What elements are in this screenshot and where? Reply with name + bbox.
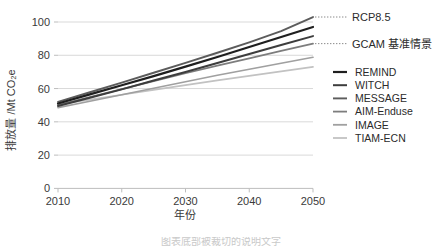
legend-label-aim-enduse: AIM-Enduse (355, 105, 413, 117)
legend-label-image: IMAGE (355, 119, 389, 131)
x-tick-label: 2040 (237, 195, 261, 207)
annotation-label: RCP8.5 (352, 11, 391, 23)
legend-label-witch: WITCH (355, 79, 389, 91)
clipped-footer-caption: 图表底部被裁切的说明文字 (0, 237, 442, 246)
x-tick-label: 2030 (173, 195, 197, 207)
annotations-group: RCP8.5GCAM 基准情景 (315, 11, 432, 50)
y-tick-label: 0 (44, 182, 50, 194)
legend-label-remind: REMIND (355, 66, 397, 78)
legend: REMINDWITCHMESSAGEAIM-EnduseIMAGETIAM-EC… (333, 66, 413, 144)
y-tick-label: 80 (38, 49, 50, 61)
x-axis-title: 年份 (174, 208, 196, 221)
gridlines-group (58, 22, 313, 155)
x-tick-label: 2050 (301, 195, 325, 207)
series-line-witch (58, 36, 313, 106)
legend-label-tiam-ecn: TIAM-ECN (355, 132, 406, 144)
y-tick-labels-group: 020406080100 (32, 16, 50, 194)
y-tick-label: 60 (38, 83, 50, 95)
x-tick-labels-group: 20102020203020402050 (46, 195, 325, 207)
emissions-line-chart: 020406080100 20102020203020402050 RCP8.5… (0, 0, 442, 246)
x-tick-label: 2020 (110, 195, 134, 207)
chart-canvas: 020406080100 20102020203020402050 RCP8.5… (0, 0, 442, 246)
series-line-image (58, 57, 313, 107)
y-tick-label: 20 (38, 149, 50, 161)
y-axis-title: 排放量 /Mt CO₂e (4, 69, 17, 150)
series-lines-group (58, 17, 313, 108)
x-tick-marks-group (58, 188, 313, 192)
annotation-label: GCAM 基准情景 (352, 38, 432, 50)
y-tick-label: 40 (38, 116, 50, 128)
legend-label-message: MESSAGE (355, 92, 407, 104)
clipped-footer-text: 图表底部被裁切的说明文字 (0, 237, 442, 246)
x-tick-label: 2010 (46, 195, 70, 207)
series-line-message (58, 17, 313, 102)
y-tick-label: 100 (32, 16, 50, 28)
